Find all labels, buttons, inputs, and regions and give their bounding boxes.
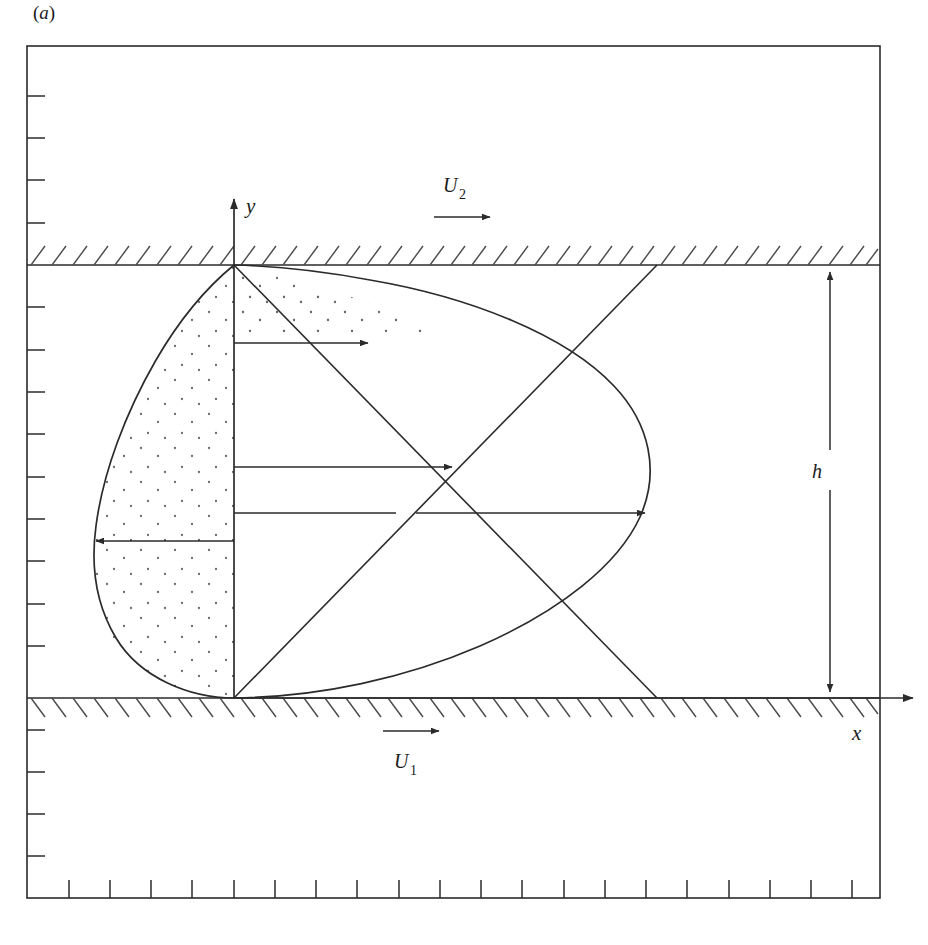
upper-wall-velocity-annotation: U 2	[434, 174, 490, 217]
figure-canvas: h U 2 U 1 y x	[0, 0, 928, 945]
linear-velocity-profiles	[234, 265, 657, 698]
lower-wall-velocity-annotation: U 1	[383, 731, 439, 778]
lower-wall-velocity-symbol: U	[394, 750, 410, 772]
upper-wall	[27, 246, 880, 265]
lower-wall	[27, 698, 880, 717]
gap-height-label: h	[812, 460, 822, 482]
bottom-ticks	[69, 880, 852, 898]
lower-wall-velocity-subscript: 1	[410, 763, 417, 778]
lower-wall-hatching	[31, 698, 878, 717]
gap-height-dimension: h	[812, 272, 830, 692]
upper-wall-velocity-symbol: U	[443, 174, 459, 196]
x-axis-label: x	[851, 721, 862, 745]
y-axis-label: y	[244, 194, 256, 218]
upper-wall-hatching	[31, 246, 878, 265]
upper-wall-velocity-subscript: 2	[459, 187, 466, 202]
left-ticks	[27, 96, 45, 856]
